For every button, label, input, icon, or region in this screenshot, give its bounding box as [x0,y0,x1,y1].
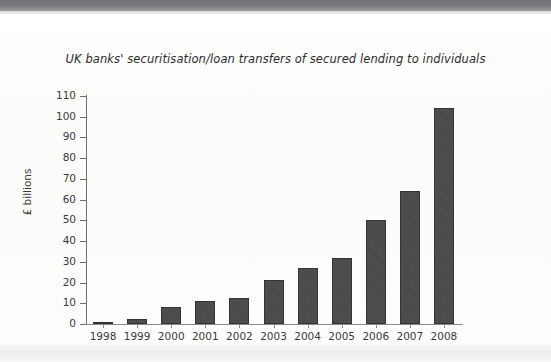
x-axis-tick [239,324,240,328]
y-axis-tick-label: 50 [30,214,76,225]
y-axis-tick-label-wrap: 50 [28,214,76,225]
x-axis-tick [308,324,309,328]
y-axis-tick-label-wrap: 90 [28,131,76,142]
x-axis-tick-label: 2008 [421,330,467,342]
y-axis-tick-label-wrap: 10 [28,297,76,308]
y-axis-tick-label: 10 [30,297,76,308]
x-axis-tick [376,324,377,328]
y-axis-tick-label: 90 [30,131,76,142]
y-axis-tick-label: 70 [30,173,76,184]
bar [400,191,420,324]
y-axis-tick [80,324,86,325]
y-axis-tick-label: 20 [30,277,76,288]
y-axis-tick-label-wrap: 40 [28,235,76,246]
page-top-band-shadow [0,11,551,15]
y-axis-tick-label-wrap: 110 [28,90,76,101]
x-axis-tick [103,324,104,328]
y-axis-tick-label: 60 [30,194,76,205]
y-axis-tick-label-wrap: 70 [28,173,76,184]
y-axis-tick-label-wrap: 60 [28,194,76,205]
y-axis-tick-label-wrap: 30 [28,256,76,267]
bar [332,258,352,324]
y-axis-tick-label: 40 [30,235,76,246]
x-axis-tick [171,324,172,328]
page-bottom-fade [0,345,551,362]
chart-title: UK banks' securitisation/loan transfers … [0,52,551,66]
y-axis-tick-label-wrap: 0 [28,318,76,329]
bar [366,220,386,324]
y-axis-tick-label-wrap: 100 [28,111,76,122]
bar [434,108,454,324]
y-axis-tick-label: 80 [30,152,76,163]
bar [229,298,249,324]
bar-series [86,96,461,324]
bar [298,268,318,324]
y-axis-tick-label-wrap: 80 [28,152,76,163]
x-axis-line [86,324,463,325]
bar [264,280,284,324]
y-axis-tick-label: 30 [30,256,76,267]
figure-page: UK banks' securitisation/loan transfers … [0,0,551,362]
x-axis-tick [342,324,343,328]
y-axis-tick-label: 0 [30,318,76,329]
x-axis-tick [410,324,411,328]
bar [195,301,215,324]
y-axis-tick-label-wrap: 20 [28,277,76,288]
page-top-band [0,0,551,11]
x-axis-tick [274,324,275,328]
bar [161,307,181,324]
y-axis-tick-label: 100 [30,111,76,122]
x-axis-tick [444,324,445,328]
y-axis-tick-label: 110 [30,90,76,101]
x-axis-tick [205,324,206,328]
x-axis-tick [137,324,138,328]
